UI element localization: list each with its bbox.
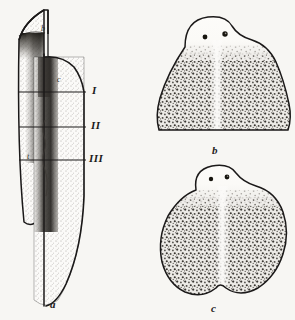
section-label-III: III (89, 153, 103, 164)
panel-c-eyespot-left (209, 177, 213, 181)
panel-caption-c: c (211, 303, 216, 314)
panel-caption-a: a (50, 299, 56, 310)
panel-b-eyespot-right (222, 31, 227, 36)
figure-plate: I II III b c t a b c (0, 0, 295, 320)
section-label-I: I (92, 85, 97, 96)
illustration-canvas (0, 0, 295, 320)
panel-caption-b: b (212, 145, 218, 156)
panel-b-eyespot-left (203, 35, 208, 40)
section-label-II: II (91, 120, 101, 131)
inner-mark-c: c (57, 76, 61, 84)
inner-mark-b: b (41, 25, 45, 33)
inner-mark-t: t (27, 153, 29, 161)
panel-c-eyespot-right (225, 175, 230, 180)
